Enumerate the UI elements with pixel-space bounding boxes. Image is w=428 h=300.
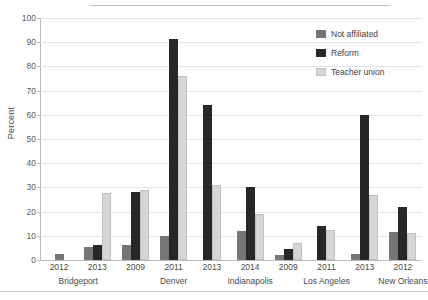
- y-axis-tick-label: 0: [2, 256, 36, 265]
- legend-item[interactable]: Teacher union: [316, 64, 428, 80]
- x-axis-city-label: Bridgeport: [59, 276, 98, 286]
- bar: [407, 233, 416, 260]
- legend-swatch-icon: [316, 49, 326, 57]
- bar: [293, 243, 302, 260]
- bar: [317, 226, 326, 260]
- bar: [360, 115, 369, 260]
- y-axis-tick-label: 10: [2, 232, 36, 241]
- x-axis-year-label: 2012: [393, 262, 412, 272]
- bar-group: [116, 18, 154, 260]
- y-axis-tick-label: 30: [2, 183, 36, 192]
- bar-group-bars: [155, 18, 193, 260]
- x-axis-city-label: Denver: [160, 276, 187, 286]
- bar-chart: Percent 0102030405060708090100 201220132…: [0, 0, 428, 300]
- bar-group-bars: [193, 18, 231, 260]
- y-axis-tick-label: 20: [2, 207, 36, 216]
- bar: [122, 245, 131, 260]
- bar: [102, 193, 111, 260]
- bar-group: [78, 18, 116, 260]
- bar: [255, 214, 264, 260]
- bar-group-bars: [40, 18, 78, 260]
- bar: [398, 207, 407, 260]
- x-axis-tick-labels: 2012201320092011201320142009201120132012…: [40, 262, 422, 296]
- legend-item-label: Teacher union: [331, 67, 384, 77]
- bar-group-bars: [78, 18, 116, 260]
- y-axis-tick-label: 50: [2, 135, 36, 144]
- x-axis-city-label: New Orleans: [378, 276, 427, 286]
- gridline: [40, 260, 422, 261]
- bar: [389, 232, 398, 260]
- bar: [369, 195, 378, 260]
- bar: [140, 190, 149, 260]
- legend-item-label: Reform: [331, 48, 359, 58]
- legend-item[interactable]: Not affiliated: [316, 26, 428, 42]
- bar-group: [155, 18, 193, 260]
- x-axis-year-label: 2011: [317, 262, 335, 272]
- bar: [284, 249, 293, 260]
- y-axis-tick-labels: 0102030405060708090100: [0, 18, 36, 260]
- bar: [326, 230, 335, 260]
- bar: [55, 254, 64, 260]
- y-axis-tick-label: 40: [2, 159, 36, 168]
- top-divider-rule: [90, 5, 390, 6]
- x-axis-year-label: 2011: [165, 262, 183, 272]
- x-axis-city-label: Indianapolis: [227, 276, 272, 286]
- x-axis-year-label: 2009: [126, 262, 145, 272]
- bar: [160, 236, 169, 260]
- y-axis-tick-label: 100: [2, 14, 36, 23]
- x-axis-year-label: 2012: [50, 262, 69, 272]
- y-axis-tick-label: 60: [2, 111, 36, 120]
- y-axis-tick-label: 70: [2, 86, 36, 95]
- bar: [169, 39, 178, 260]
- x-axis-year-label: 2013: [88, 262, 107, 272]
- chart-legend: Not affiliatedReformTeacher union: [316, 26, 428, 83]
- x-axis-year-label: 2009: [279, 262, 298, 272]
- bar-group: [193, 18, 231, 260]
- bar-group-bars: [269, 18, 307, 260]
- bar-group: [40, 18, 78, 260]
- bar: [351, 254, 360, 260]
- bar-group-bars: [116, 18, 154, 260]
- bar: [275, 255, 284, 260]
- legend-item-label: Not affiliated: [331, 29, 378, 39]
- bar: [237, 231, 246, 260]
- x-axis-year-label: 2013: [202, 262, 221, 272]
- bar-group: [269, 18, 307, 260]
- bar-group-bars: [231, 18, 269, 260]
- bar: [131, 192, 140, 260]
- bar: [84, 247, 93, 260]
- bar-group: [231, 18, 269, 260]
- y-axis-tick-label: 80: [2, 62, 36, 71]
- x-axis-year-label: 2014: [241, 262, 260, 272]
- y-axis-tick-label: 90: [2, 38, 36, 47]
- bar: [212, 185, 221, 260]
- legend-item[interactable]: Reform: [316, 45, 428, 61]
- x-axis-year-label: 2013: [355, 262, 374, 272]
- legend-swatch-icon: [316, 68, 326, 76]
- bar: [93, 245, 102, 260]
- legend-swatch-icon: [316, 30, 326, 38]
- bar: [178, 76, 187, 260]
- bar: [203, 105, 212, 260]
- bar: [246, 187, 255, 260]
- x-axis-city-label: Los Angeles: [303, 276, 349, 286]
